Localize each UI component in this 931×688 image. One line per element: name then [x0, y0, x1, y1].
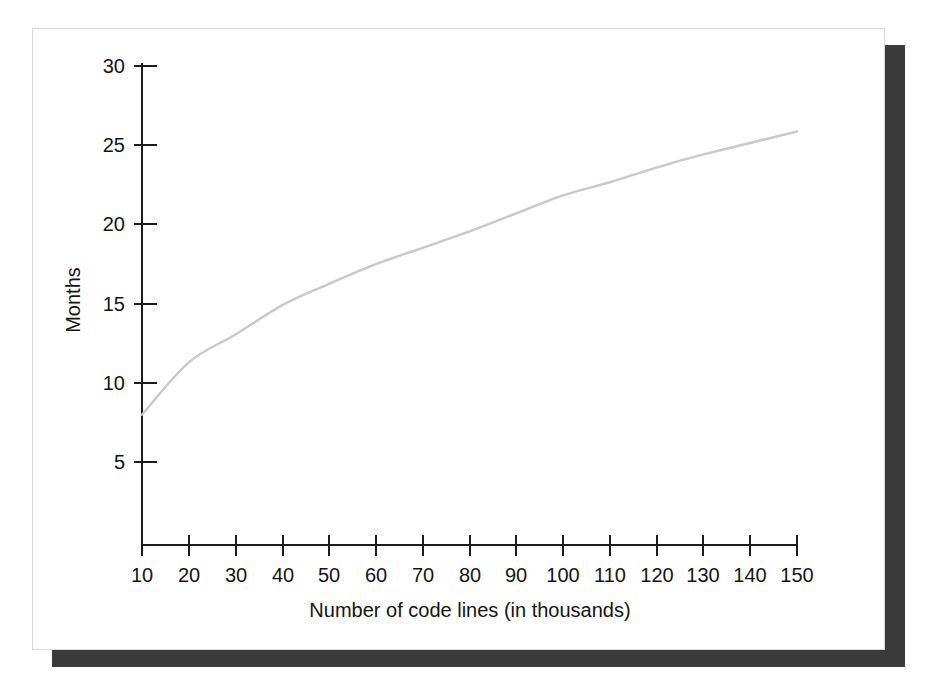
figure-root: 30 25 20 15 10 5 — [0, 0, 931, 688]
figure-card — [32, 28, 885, 650]
